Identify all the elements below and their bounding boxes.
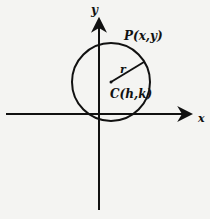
center-point xyxy=(110,81,113,84)
y-axis-label: y xyxy=(90,3,99,17)
circle-diagram: y x P(x,y) r C(h,k) xyxy=(0,0,210,219)
x-axis-label: x xyxy=(197,112,205,125)
center-label: C(h,k) xyxy=(110,87,152,101)
point-label: P(x,y) xyxy=(123,29,163,43)
radius-line xyxy=(111,62,144,82)
